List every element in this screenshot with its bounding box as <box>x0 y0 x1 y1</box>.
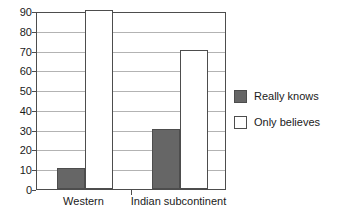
y-axis-tickmark <box>32 91 36 92</box>
legend-label: Really knows <box>254 91 319 102</box>
y-axis-tick-label: 0 <box>6 185 32 196</box>
y-axis-tickmark <box>32 131 36 132</box>
bar-chart: 0102030405060708090 WesternIndian subcon… <box>0 0 340 222</box>
y-axis-tick-label: 20 <box>6 145 32 156</box>
y-axis-tick-label: 30 <box>6 125 32 136</box>
y-axis-tickmark <box>32 190 36 191</box>
y-axis-tick-label: 90 <box>6 7 32 18</box>
y-axis-tick-label: 40 <box>6 105 32 116</box>
y-axis-tick-label: 80 <box>6 26 32 37</box>
y-axis-tickmark <box>32 52 36 53</box>
y-axis: 0102030405060708090 <box>4 0 32 222</box>
legend-label: Only believes <box>254 117 320 128</box>
x-axis-tickmark <box>131 190 132 195</box>
y-axis-tick-label: 70 <box>6 46 32 57</box>
y-axis-tickmark <box>32 32 36 33</box>
legend-item: Only believes <box>234 112 340 132</box>
y-axis-tick-label: 50 <box>6 86 32 97</box>
y-axis-tickmark <box>32 12 36 13</box>
y-axis-tickmark <box>32 111 36 112</box>
y-axis-tickmark <box>32 150 36 151</box>
y-axis-tick-label: 60 <box>6 66 32 77</box>
chart-legend: Really knowsOnly believes <box>234 86 340 138</box>
y-axis-tickmark <box>32 71 36 72</box>
y-axis-tickmark <box>32 170 36 171</box>
y-axis-tickmarks <box>36 12 226 190</box>
legend-swatch-icon <box>234 116 247 129</box>
y-axis-tick-label: 10 <box>6 165 32 176</box>
legend-swatch-icon <box>234 90 247 103</box>
x-axis-category-label: Indian subcontinent <box>109 196 249 207</box>
legend-item: Really knows <box>234 86 340 106</box>
